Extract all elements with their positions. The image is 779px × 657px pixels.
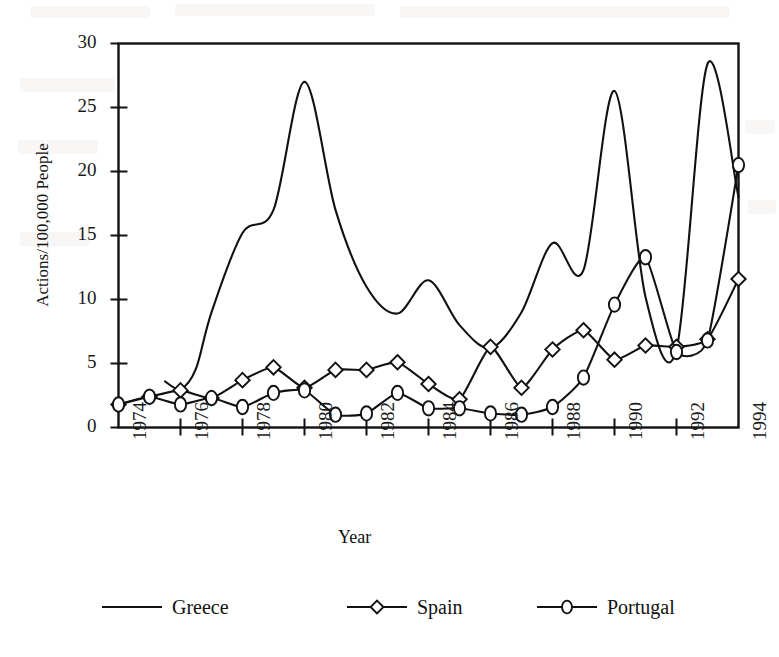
data-point-marker (235, 373, 249, 387)
chart-page: 051015202530 197419761978198019821984198… (0, 0, 779, 657)
plot-frame (119, 44, 739, 428)
x-tick-label: 1978 (253, 402, 275, 440)
x-tick-label: 1976 (191, 402, 213, 440)
x-tick-label: 1980 (315, 402, 337, 440)
legend-item-spain[interactable]: Spain (345, 592, 463, 622)
y-axis-title: Actions/100,000 People (33, 120, 53, 330)
data-point-marker (578, 370, 589, 384)
x-tick-label: 1974 (129, 402, 151, 440)
data-point-marker (485, 406, 496, 420)
data-point-marker (576, 323, 590, 337)
legend-item-portugal[interactable]: Portugal (535, 592, 675, 622)
series-spain (111, 272, 745, 412)
data-point-marker (731, 272, 745, 286)
data-point-marker (266, 360, 280, 374)
x-tick-label: 1990 (625, 402, 647, 440)
data-point-marker (237, 400, 248, 414)
x-tick-label: 1988 (563, 402, 585, 440)
y-tick-label: 5 (57, 351, 97, 373)
data-point-marker (392, 386, 403, 400)
y-tick-label: 10 (57, 287, 97, 309)
data-point-marker (671, 345, 682, 359)
data-point-marker (733, 158, 744, 172)
x-axis-title: Year (338, 527, 371, 548)
chart-plot-area (0, 0, 779, 657)
y-tick-label: 20 (57, 159, 97, 181)
legend-label: Greece (168, 596, 229, 619)
data-point-marker (638, 338, 652, 352)
legend-swatch-circle-icon (535, 596, 599, 618)
data-point-marker (640, 250, 651, 264)
data-point-marker (609, 297, 620, 311)
data-point-marker (113, 397, 124, 411)
data-point-marker (175, 397, 186, 411)
chart-legend: GreeceSpainPortugal (0, 592, 779, 632)
data-series-layer (111, 61, 745, 422)
series-greece (165, 61, 739, 389)
legend-swatch-diamond-icon (345, 596, 409, 618)
data-point-marker (328, 363, 342, 377)
y-tick-label: 25 (57, 95, 97, 117)
data-point-marker (547, 400, 558, 414)
data-point-marker (359, 363, 373, 377)
legend-item-greece[interactable]: Greece (100, 592, 229, 622)
y-tick-label: 30 (57, 31, 97, 53)
legend-label: Spain (413, 596, 463, 619)
y-tick-label: 15 (57, 223, 97, 245)
y-tick-label: 0 (57, 415, 97, 437)
data-point-marker (423, 401, 434, 415)
legend-swatch-none-icon (100, 596, 164, 618)
series-line (165, 61, 739, 389)
x-tick-label: 1984 (439, 402, 461, 440)
data-point-marker (421, 377, 435, 391)
data-point-marker (299, 383, 310, 397)
x-tick-label: 1994 (749, 402, 771, 440)
x-tick-label: 1986 (501, 402, 523, 440)
data-point-marker (702, 333, 713, 347)
data-point-marker (361, 406, 372, 420)
data-point-marker (268, 386, 279, 400)
data-point-marker (390, 355, 404, 369)
x-tick-label: 1992 (687, 402, 709, 440)
x-tick-label: 1982 (377, 402, 399, 440)
legend-label: Portugal (603, 596, 675, 619)
